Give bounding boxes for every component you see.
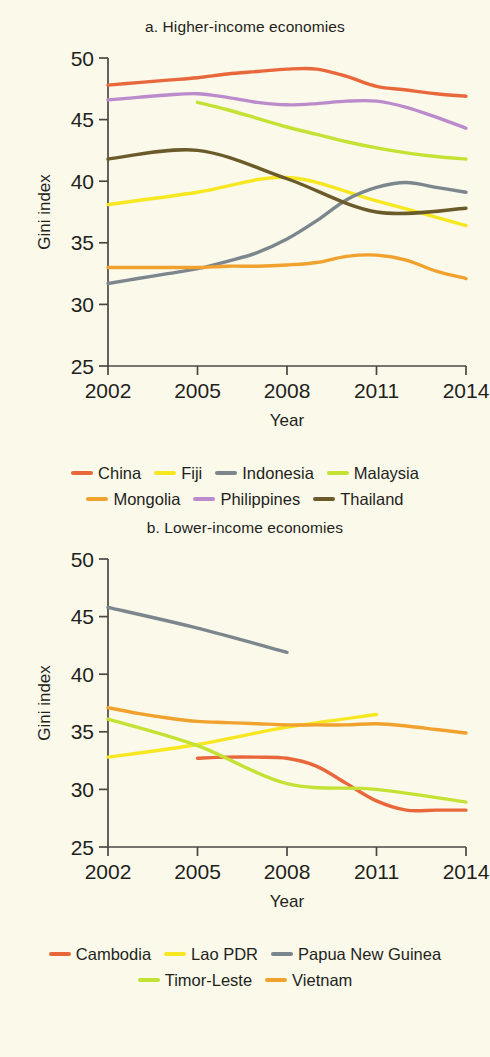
legend-item-label: Cambodia	[76, 943, 151, 965]
y-axis-tick-label: 50	[71, 547, 94, 570]
x-axis-tick-label: 2008	[264, 379, 311, 402]
x-axis-title: Year	[270, 892, 305, 911]
panel-b-title: b. Lower-income economies	[0, 511, 490, 537]
y-axis-tick-label: 45	[71, 108, 94, 131]
legend-item-mongolia[interactable]: Mongolia	[86, 488, 180, 510]
series-line-papua-new-guinea	[108, 607, 287, 652]
legend-item-label: Philippines	[220, 488, 300, 510]
panel-a-title: a. Higher-income economies	[0, 0, 490, 36]
legend-swatch-icon	[71, 471, 93, 475]
legend-item-lao-pdr[interactable]: Lao PDR	[164, 943, 258, 965]
y-axis-tick-label: 25	[71, 355, 94, 378]
legend-swatch-icon	[193, 497, 215, 501]
legend-item-timor-leste[interactable]: Timor-Leste	[138, 969, 252, 991]
y-axis-tick-label: 35	[71, 231, 94, 254]
series-line-china	[108, 68, 466, 96]
legend-item-vietnam[interactable]: Vietnam	[265, 969, 352, 991]
legend-item-label: Fiji	[181, 462, 202, 484]
x-axis-tick-label: 2002	[85, 379, 132, 402]
legend-item-label: Indonesia	[242, 462, 314, 484]
legend-item-thailand[interactable]: Thailand	[313, 488, 403, 510]
legend-swatch-icon	[215, 471, 237, 475]
panel-b-plot-area: 25303540455020022005200820112014YearGini…	[0, 537, 490, 937]
legend-swatch-icon	[313, 497, 335, 501]
x-axis-tick-label: 2005	[174, 379, 221, 402]
x-axis-tick-label: 2008	[264, 860, 311, 883]
y-axis-tick-label: 45	[71, 605, 94, 628]
panel-lower-income: b. Lower-income economies 25303540455020…	[0, 511, 490, 992]
y-axis-title: Gini index	[35, 664, 54, 740]
legend-item-philippines[interactable]: Philippines	[193, 488, 300, 510]
y-axis-tick-label: 30	[71, 293, 94, 316]
series-line-philippines	[108, 94, 466, 129]
legend-swatch-icon	[164, 952, 186, 956]
x-axis-title: Year	[270, 411, 305, 430]
legend-lower-income: CambodiaLao PDRPapua New GuineaTimor-Les…	[0, 937, 490, 992]
series-line-lao-pdr	[108, 714, 377, 757]
x-axis-tick-label: 2014	[443, 379, 490, 402]
y-axis-tick-label: 50	[71, 47, 94, 70]
legend-item-cambodia[interactable]: Cambodia	[49, 943, 151, 965]
legend-item-label: Malaysia	[354, 462, 419, 484]
legend-item-papua-new-guinea[interactable]: Papua New Guinea	[271, 943, 441, 965]
legend-item-label: Timor-Leste	[165, 969, 252, 991]
legend-item-china[interactable]: China	[71, 462, 141, 484]
legend-swatch-icon	[154, 471, 176, 475]
panel-higher-income: a. Higher-income economies 2530354045502…	[0, 0, 490, 511]
series-line-fiji	[108, 177, 466, 225]
legend-swatch-icon	[327, 471, 349, 475]
panel-a-plot-area: 25303540455020022005200820112014YearGini…	[0, 36, 490, 456]
legend-swatch-icon	[271, 952, 293, 956]
y-axis-title: Gini index	[35, 174, 54, 250]
y-axis-tick-label: 40	[71, 662, 94, 685]
y-axis-tick-label: 25	[71, 835, 94, 858]
y-axis-tick-label: 35	[71, 720, 94, 743]
legend-item-label: Mongolia	[113, 488, 180, 510]
series-line-vietnam	[108, 707, 466, 732]
x-axis-tick-label: 2014	[443, 860, 490, 883]
y-axis-tick-label: 40	[71, 170, 94, 193]
legend-item-malaysia[interactable]: Malaysia	[327, 462, 419, 484]
legend-item-label: China	[98, 462, 141, 484]
x-axis-tick-label: 2011	[354, 379, 399, 402]
series-line-timor-leste	[108, 719, 466, 802]
legend-item-indonesia[interactable]: Indonesia	[215, 462, 314, 484]
legend-item-label: Lao PDR	[191, 943, 258, 965]
legend-item-label: Thailand	[340, 488, 403, 510]
x-axis-tick-label: 2011	[354, 860, 399, 883]
y-axis-tick-label: 30	[71, 777, 94, 800]
legend-swatch-icon	[138, 978, 160, 982]
legend-item-fiji[interactable]: Fiji	[154, 462, 202, 484]
legend-swatch-icon	[265, 978, 287, 982]
x-axis-tick-label: 2005	[174, 860, 221, 883]
legend-item-label: Papua New Guinea	[298, 943, 441, 965]
series-line-malaysia	[198, 102, 467, 159]
chart-a-svg: 25303540455020022005200820112014YearGini…	[0, 36, 490, 456]
x-axis-tick-label: 2002	[85, 860, 132, 883]
legend-swatch-icon	[86, 497, 108, 501]
legend-item-label: Vietnam	[292, 969, 352, 991]
legend-higher-income: ChinaFijiIndonesiaMalaysiaMongoliaPhilip…	[0, 456, 490, 511]
legend-swatch-icon	[49, 952, 71, 956]
chart-b-svg: 25303540455020022005200820112014YearGini…	[0, 537, 490, 937]
